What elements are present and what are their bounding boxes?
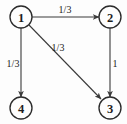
edge-1-to-4-label: 1/3	[7, 58, 20, 69]
edge-2-to-3: 1	[110, 28, 118, 97]
node-2[interactable]: 2	[99, 6, 121, 28]
node-2-label: 2	[107, 11, 113, 25]
node-1-label: 1	[18, 11, 24, 25]
node-4-label: 4	[18, 102, 25, 116]
edge-1-to-3-line	[29, 25, 101, 99]
edge-1-to-2: 1/3	[32, 4, 99, 18]
edge-1-to-4: 1/3	[7, 28, 21, 97]
edge-1-to-3-label: 1/3	[52, 42, 65, 53]
node-3-label: 3	[107, 102, 113, 116]
edge-1-to-2-label: 1/3	[59, 4, 72, 15]
node-4[interactable]: 4	[10, 97, 32, 119]
directed-graph-svg: 1/3 1/3 1/3 1 1 2 3	[0, 0, 127, 124]
node-1[interactable]: 1	[10, 6, 32, 28]
edge-1-to-3: 1/3	[29, 25, 101, 99]
node-3[interactable]: 3	[99, 97, 121, 119]
graph-diagram-canvas: 1/3 1/3 1/3 1 1 2 3	[0, 0, 127, 124]
edge-2-to-3-label: 1	[113, 58, 118, 69]
